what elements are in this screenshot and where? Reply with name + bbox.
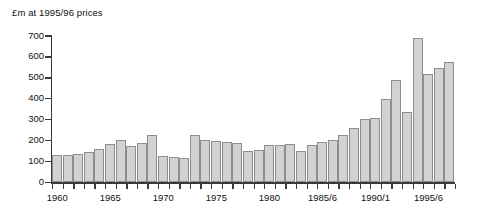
bar [179,158,189,183]
y-axis-label: 100 [0,156,44,166]
x-axis-tick [137,184,138,189]
x-axis-label: 1990/1 [361,192,390,203]
bar [158,156,168,182]
x-axis-tick [211,184,212,189]
x-axis-tick [296,184,297,189]
bar [211,141,221,183]
y-axis-label: 200 [0,135,44,145]
x-axis-tick [63,184,64,189]
x-axis-tick [264,184,265,189]
x-axis-tick [349,184,350,189]
bar [73,154,83,182]
x-axis-tick [434,184,435,189]
bar [349,128,359,182]
bar [137,143,147,183]
bar [370,118,380,183]
bar [338,135,348,183]
bar [190,135,200,183]
x-axis-tick [232,184,233,189]
y-axis-tick [45,119,52,120]
x-axis-tick [360,184,361,189]
x-axis-label: 1970 [153,192,174,203]
bar [63,155,73,182]
x-axis-label: 1995/6 [414,192,443,203]
bar [285,144,295,182]
y-axis-label-text: 400 [4,93,44,103]
x-axis-tick [254,184,255,189]
x-axis-tick [328,184,329,189]
bar [391,80,401,182]
x-axis-tick [275,184,276,189]
bars-layer [52,36,455,182]
bar [402,112,412,182]
bar [243,151,253,182]
y-axis-label: 400 [0,93,44,103]
x-axis-tick [126,184,127,189]
x-axis-label: 1980 [259,192,280,203]
x-axis-tick [381,184,382,189]
y-axis-label: 700 [0,31,44,41]
y-axis-label-text: 300 [4,114,44,124]
bar [434,68,444,182]
x-axis-label: 1985/6 [308,192,337,203]
y-axis-tick [45,35,52,36]
bar [222,142,232,183]
x-axis-tick [52,184,53,189]
x-axis-tick [84,184,85,189]
x-axis-tick [370,184,371,189]
bar [232,143,242,183]
x-axis-label: 1965 [100,192,121,203]
bar [147,135,157,182]
x-axis-tick [338,184,339,189]
y-axis-label: 0 [0,177,44,187]
bar [94,149,104,182]
bar [275,145,285,182]
x-axis-tick [317,184,318,189]
x-axis-label: 1975 [206,192,227,203]
y-axis-tick [45,140,52,141]
x-axis-tick [413,184,414,189]
x-axis-tick [391,184,392,189]
x-axis-tick [307,184,308,189]
y-axis-label-text: 0 [4,177,44,187]
bar [307,145,317,183]
bar [413,38,423,182]
bar [381,99,391,183]
y-axis-tick [45,56,52,57]
x-axis-tick [455,184,456,189]
bar [126,146,136,183]
bar [328,140,338,183]
x-axis-tick [222,184,223,189]
y-axis-label-text: 500 [4,72,44,82]
bar [296,151,306,183]
y-axis-tick [45,98,52,99]
y-axis-label-text: 700 [4,31,44,41]
y-axis-label-text: 100 [4,156,44,166]
bar [116,140,126,182]
x-axis-tick [423,184,424,189]
bar [423,74,433,183]
x-axis-tick [147,184,148,189]
x-axis-tick [105,184,106,189]
bar [105,144,115,183]
x-axis-tick [190,184,191,189]
y-axis-label: 500 [0,72,44,82]
y-axis-label-text: 600 [4,51,44,61]
x-axis-tick [116,184,117,189]
chart-title: £m at 1995/96 prices [12,7,103,18]
x-axis-tick [200,184,201,189]
y-axis-tick [45,161,52,162]
x-axis-tick [94,184,95,189]
y-axis-tick [45,77,52,78]
y-axis-label: 300 [0,114,44,124]
x-axis-tick [285,184,286,189]
bar [254,150,264,182]
x-axis-tick [73,184,74,189]
x-axis-label: 1960 [47,192,68,203]
y-axis-label: 600 [0,51,44,61]
y-axis-tick [45,182,52,183]
bar [200,140,210,183]
bar [444,62,454,182]
bar [264,145,274,182]
bar [52,155,62,182]
